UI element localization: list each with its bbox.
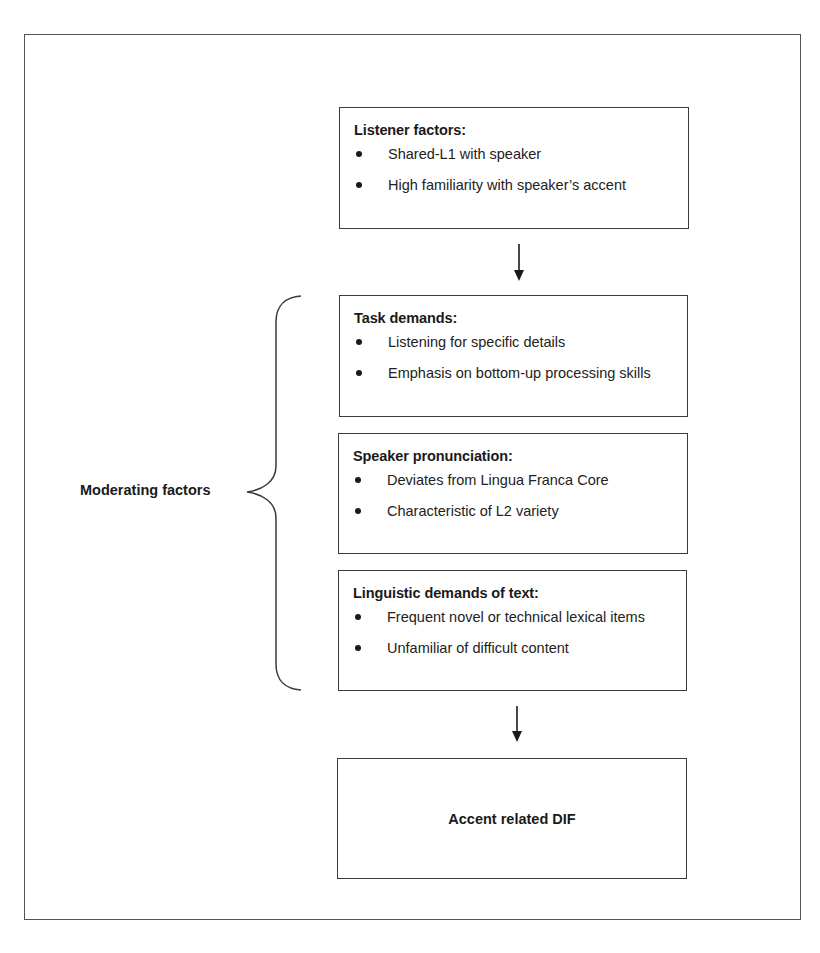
bullet-icon: [355, 614, 361, 620]
task-demands-title: Task demands:: [354, 310, 457, 326]
linguistic-demands-box: Linguistic demands of text: Frequent nov…: [338, 570, 687, 691]
speaker-pronunciation-title: Speaker pronunciation:: [353, 448, 513, 464]
accent-related-dif-label: Accent related DIF: [338, 811, 686, 827]
bullet-icon: [356, 151, 362, 157]
bullet-icon: [355, 477, 361, 483]
listener-factors-box: Listener factors: Shared-L1 with speaker…: [339, 107, 689, 229]
bullet-icon: [356, 339, 362, 345]
bullet-icon: [355, 508, 361, 514]
clipped-caption-fragment: [8, 0, 408, 2]
speaker-pronunciation-box: Speaker pronunciation: Deviates from Lin…: [338, 433, 688, 554]
task-demands-box: Task demands: Listening for specific det…: [339, 295, 688, 417]
bullet-icon: [355, 645, 361, 651]
linguistic-demands-title: Linguistic demands of text:: [353, 585, 539, 601]
accent-related-dif-box: Accent related DIF: [337, 758, 687, 879]
bullet-icon: [356, 370, 362, 376]
listener-factors-title: Listener factors:: [354, 122, 466, 138]
bullet-icon: [356, 182, 362, 188]
moderating-factors-label: Moderating factors: [80, 482, 211, 498]
